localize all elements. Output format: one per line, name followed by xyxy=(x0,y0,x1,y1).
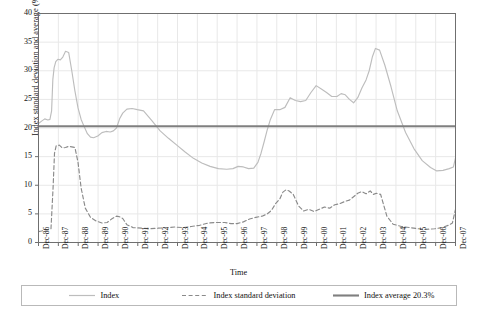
data-series xyxy=(39,48,456,231)
x-tick-label: Dec-04 xyxy=(399,227,408,249)
x-tick-label: Dec-07 xyxy=(459,227,468,249)
legend-swatch-icon xyxy=(182,291,208,300)
legend-label: Index standard deviation xyxy=(213,291,295,300)
y-tick-label: 15 xyxy=(10,151,32,160)
x-tick-label: Dec-91 xyxy=(141,227,150,249)
legend-swatch-icon xyxy=(69,291,95,300)
x-tick-label: Dec-01 xyxy=(339,227,348,249)
y-tick-label: 25 xyxy=(10,94,32,103)
legend-label: Index average 20.3% xyxy=(364,291,434,300)
legend-swatch-icon xyxy=(333,291,359,300)
chart-legend: IndexIndex standard deviationIndex avera… xyxy=(21,285,457,306)
x-tick-label: Dec-90 xyxy=(121,227,130,249)
y-tick-label: 0 xyxy=(10,237,32,246)
x-tick-label: Dec-94 xyxy=(200,227,209,249)
chart-figure: Index standard deviation and average (%)… xyxy=(0,0,477,315)
x-tick-label: Dec-02 xyxy=(359,227,368,249)
legend-item: Index standard deviation xyxy=(167,291,312,300)
x-tick-label: Dec-86 xyxy=(42,227,51,249)
x-tick-label: Dec-06 xyxy=(439,227,448,249)
x-tick-label: Dec-98 xyxy=(280,227,289,249)
x-axis-label: Time xyxy=(0,268,477,277)
x-tick-label: Dec-05 xyxy=(419,227,428,249)
x-tick-label: Dec-99 xyxy=(300,227,309,249)
legend-label: Index xyxy=(100,291,119,300)
x-tick-label: Dec-03 xyxy=(379,227,388,249)
legend-item: Index average 20.3% xyxy=(311,291,456,300)
x-tick-label: Dec-88 xyxy=(81,227,90,249)
x-tick-label: Dec-97 xyxy=(260,227,269,249)
y-tick-label: 20 xyxy=(10,123,32,132)
x-tick-label: Dec-00 xyxy=(320,227,329,249)
x-tick-label: Dec-89 xyxy=(101,227,110,249)
x-tick-label: Dec-87 xyxy=(61,227,70,249)
x-tick-label: Dec-92 xyxy=(161,227,170,249)
gridlines xyxy=(39,14,456,243)
y-tick-label: 40 xyxy=(10,8,32,17)
y-tick-label: 35 xyxy=(10,37,32,46)
x-tick-label: Dec-95 xyxy=(220,227,229,249)
x-tick-label: Dec-93 xyxy=(181,227,190,249)
y-tick-label: 30 xyxy=(10,65,32,74)
x-tick-label: Dec-96 xyxy=(240,227,249,249)
y-tick-label: 5 xyxy=(10,208,32,217)
legend-item: Index xyxy=(22,291,167,300)
y-tick-label: 10 xyxy=(10,180,32,189)
